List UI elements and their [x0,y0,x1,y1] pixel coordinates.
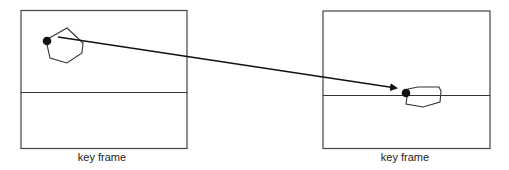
keyframe-diagram [0,0,509,170]
right-hexagon-shape [406,87,441,107]
right-frame-border [323,11,490,149]
left-hexagon-shape [46,28,83,63]
left-anchor-dot-icon [43,37,52,46]
motion-arrow [58,37,396,88]
left-key-frame [21,11,187,149]
right-anchor-dot-icon [402,89,411,98]
right-frame-caption: key frame [345,151,465,164]
left-frame-caption: key frame [42,151,162,164]
right-key-frame [323,11,490,149]
left-frame-border [21,11,187,149]
